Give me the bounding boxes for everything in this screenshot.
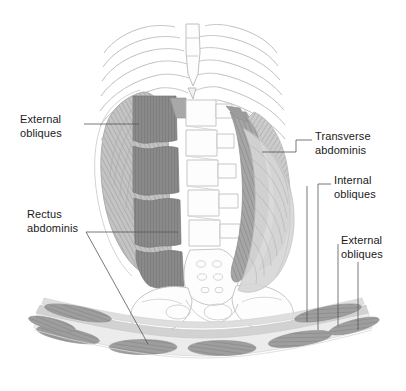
section-rectus-left xyxy=(109,340,177,355)
section-rectus-right xyxy=(188,341,256,356)
label-external-obliques-right: External obliques xyxy=(341,234,383,261)
label-external-obliques-left: External obliques xyxy=(20,113,62,140)
label-internal-obliques: Internal obliques xyxy=(334,174,376,201)
label-rectus-abdominis: Rectus abdominis xyxy=(27,208,78,235)
label-transverse-abdominis: Transverse abdominis xyxy=(315,130,371,157)
